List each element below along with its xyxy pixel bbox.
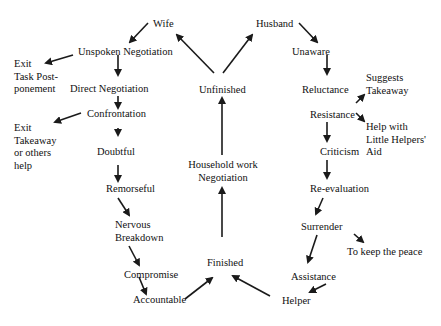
node-doubtful: Doubtful xyxy=(97,146,135,159)
arrow-helper-to-finished xyxy=(233,276,270,296)
arrow-reevaluation-to-surrender xyxy=(316,198,323,214)
node-household-line2: Negotiation xyxy=(188,172,258,185)
node-exit1-line3: ponement xyxy=(14,83,58,96)
node-exit-task-postponement: Exit Task Post- ponement xyxy=(14,58,58,96)
arrow-remorseful-to-nervous xyxy=(118,198,129,215)
node-exit2-line3: or others xyxy=(14,147,56,160)
arrow-assistance-to-helper xyxy=(310,284,326,292)
node-help-little-helpers: Help with Little Helpers' Aid xyxy=(366,121,426,159)
node-suggests-takeaway: Suggests Takeaway xyxy=(366,72,408,97)
node-unaware: Unaware xyxy=(292,46,330,59)
arrow-accountable-to-finished xyxy=(185,278,212,299)
node-suggests-line1: Suggests xyxy=(366,72,408,85)
arrow-wife-to-unspoken xyxy=(130,23,148,42)
node-accountable: Accountable xyxy=(133,294,186,307)
node-wife: Wife xyxy=(153,18,174,31)
node-unspoken-negotiation: Unspoken Negotiation xyxy=(78,46,173,59)
node-exit1-line1: Exit xyxy=(14,58,58,71)
node-exit2-line1: Exit xyxy=(14,122,56,135)
arrow-surrender-to-peace xyxy=(354,234,363,242)
node-compromise: Compromise xyxy=(124,269,178,282)
node-help-line3: Aid xyxy=(366,146,426,159)
node-exit-takeaway: Exit Takeaway or others help xyxy=(14,122,56,172)
node-help-line2: Little Helpers' xyxy=(366,134,426,147)
node-finished: Finished xyxy=(207,257,243,270)
node-exit2-line2: Takeaway xyxy=(14,135,56,148)
node-exit2-line4: help xyxy=(14,160,56,173)
node-assistance: Assistance xyxy=(291,271,336,284)
node-exit1-line2: Task Post- xyxy=(14,71,58,84)
node-husband: Husband xyxy=(256,18,293,31)
node-unfinished: Unfinished xyxy=(199,84,246,97)
arrow-nervous-to-compromise xyxy=(129,246,139,265)
node-remorseful: Remorseful xyxy=(106,183,155,196)
node-help-line1: Help with xyxy=(366,121,426,134)
node-nervous-line1: Nervous xyxy=(115,219,163,232)
node-confrontation: Confrontation xyxy=(87,108,146,121)
node-criticism: Criticism xyxy=(320,146,359,159)
node-nervous-breakdown: Nervous Breakdown xyxy=(115,219,163,244)
node-reevaluation: Re-evaluation xyxy=(310,183,369,196)
node-nervous-line2: Breakdown xyxy=(115,232,163,245)
arrow-resistance-to-help xyxy=(356,113,364,121)
arrow-surrender-to-assistance xyxy=(308,235,317,262)
arrow-husband-to-unaware xyxy=(299,23,317,42)
node-helper: Helper xyxy=(282,295,311,308)
arrow-reluctance-to-suggests xyxy=(356,95,364,103)
node-household-negotiation: Household work Negotiation xyxy=(188,159,258,184)
arrow-unfinished-to-wife xyxy=(177,35,214,73)
node-household-line1: Household work xyxy=(188,159,258,172)
node-direct-negotiation: Direct Negotiation xyxy=(70,83,148,96)
node-surrender: Surrender xyxy=(301,221,342,234)
node-resistance: Resistance xyxy=(310,109,355,122)
node-reluctance: Reluctance xyxy=(302,84,349,97)
arrow-confrontation-to-exit2 xyxy=(55,113,81,122)
node-suggests-line2: Takeaway xyxy=(366,85,408,98)
node-keep-the-peace: To keep the peace xyxy=(347,246,422,259)
arrow-unfinished-to-husband xyxy=(223,35,252,73)
